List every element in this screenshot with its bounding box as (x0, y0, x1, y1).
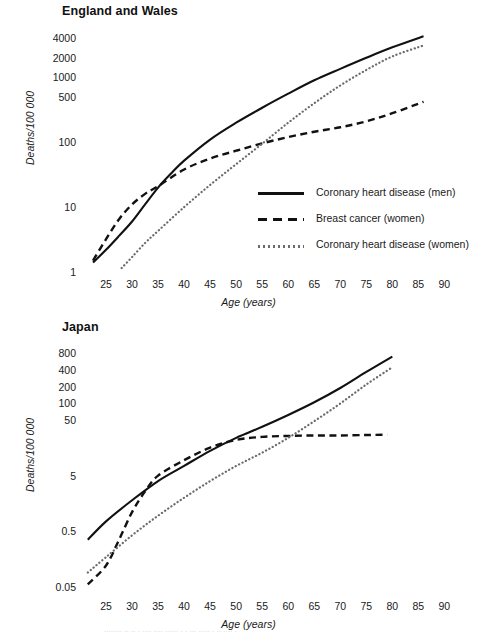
y-tick-label: 0.5 (61, 525, 76, 537)
y-tick-label: 500 (58, 91, 76, 103)
legend-label: Breast cancer (women) (316, 212, 425, 224)
x-tick-label: 40 (178, 600, 190, 612)
x-tick-label: 40 (178, 278, 190, 290)
page-bleed: ........ .. .. . .... .... ...... . . ..… (0, 628, 497, 642)
x-tick-label: 25 (100, 278, 112, 290)
y-tick-label: 100 (58, 397, 76, 409)
x-tick-label: 90 (439, 600, 451, 612)
y-tick-label: 200 (58, 381, 76, 393)
legend-england: Coronary heart disease (men)Breast cance… (258, 186, 497, 258)
x-tick-label: 85 (413, 600, 425, 612)
y-tick-label: 5 (70, 470, 76, 482)
y-tick-label: 50 (64, 414, 76, 426)
x-tick-label: 70 (334, 278, 346, 290)
legend-key-dashed-icon (258, 218, 304, 221)
x-tick-label: 50 (230, 600, 242, 612)
panel-japan: Japan Deaths/100 000 0.050.5550100200400… (0, 312, 497, 642)
y-tick-label: 2000 (53, 52, 76, 64)
panel-england-and-wales: England and Wales Deaths/100 000 1101005… (0, 0, 497, 320)
x-tick-label: 30 (126, 600, 138, 612)
x-tick-label: 80 (386, 600, 398, 612)
x-tick-label: 60 (282, 600, 294, 612)
y-axis-ticks-japan: 0.050.5550100200400800 (34, 312, 76, 642)
x-tick-label: 35 (152, 278, 164, 290)
legend-label: Coronary heart disease (men) (316, 186, 455, 198)
legend-key-solid-icon (258, 192, 304, 195)
x-tick-label: 55 (256, 278, 268, 290)
x-tick-label: 65 (308, 278, 320, 290)
legend-key-dotted-icon (258, 245, 304, 248)
y-tick-label: 0.05 (56, 581, 76, 593)
y-tick-label: 400 (58, 364, 76, 376)
y-axis-ticks-england: 110100500100020004000 (34, 0, 76, 320)
x-tick-label: 65 (308, 600, 320, 612)
y-tick-label: 800 (58, 347, 76, 359)
legend-label: Coronary heart disease (women) (316, 238, 469, 250)
x-tick-label: 60 (282, 278, 294, 290)
series-line (88, 367, 393, 572)
x-tick-label: 45 (204, 278, 216, 290)
y-tick-label: 1000 (53, 71, 76, 83)
x-tick-label: 70 (334, 600, 346, 612)
series-line (88, 435, 387, 585)
x-tick-label: 55 (256, 600, 268, 612)
y-tick-label: 100 (58, 136, 76, 148)
x-tick-label: 80 (386, 278, 398, 290)
x-tick-label: 85 (413, 278, 425, 290)
y-tick-label: 4000 (53, 32, 76, 44)
x-tick-label: 30 (126, 278, 138, 290)
panel-title-england: England and Wales (62, 4, 178, 18)
series-line (88, 357, 393, 540)
x-tick-label: 75 (360, 278, 372, 290)
y-tick-label: 1 (70, 266, 76, 278)
y-tick-label: 10 (64, 201, 76, 213)
x-tick-label: 75 (360, 600, 372, 612)
x-tick-label: 25 (100, 600, 112, 612)
x-axis-label-england: Age (years) (0, 296, 497, 308)
x-tick-label: 45 (204, 600, 216, 612)
page-bleed-text: ........ .. .. . .... .... ...... . . ..… (104, 628, 237, 634)
plot-area-japan (80, 348, 460, 592)
x-tick-label: 35 (152, 600, 164, 612)
x-tick-label: 90 (439, 278, 451, 290)
x-tick-label: 50 (230, 278, 242, 290)
